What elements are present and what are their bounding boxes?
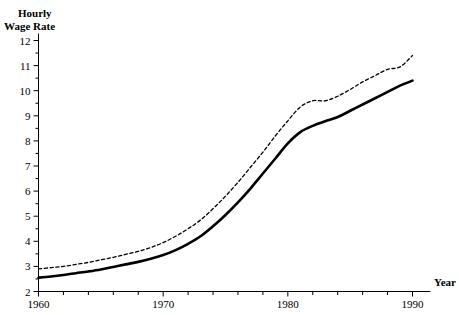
- chart-title-line2: Wage Rate: [4, 20, 55, 32]
- y-axis-tick-label: 3: [25, 260, 31, 272]
- chart-title-line1: Hourly: [18, 7, 52, 19]
- y-axis-tick-label: 5: [25, 210, 31, 222]
- hourly-wage-rate-line-chart: Hourly Wage Rate 23456789101112 19601970…: [0, 0, 459, 315]
- y-axis-tick-label: 8: [25, 135, 31, 147]
- y-axis-tick-label: 10: [20, 85, 32, 97]
- x-axis: 1960197019801990: [28, 292, 431, 310]
- y-axis-tick-label: 6: [25, 185, 31, 197]
- series-dashed-curve: [39, 56, 413, 269]
- x-axis-tick-label: 1970: [152, 298, 175, 310]
- y-axis-tick-label: 11: [20, 60, 31, 72]
- x-axis-tick-label: 1980: [277, 298, 300, 310]
- y-axis-tick-label: 7: [25, 160, 31, 172]
- data-series-group: [39, 56, 413, 278]
- chart-title-group: Hourly Wage Rate: [4, 7, 55, 32]
- x-axis-tick-label: 1990: [402, 298, 425, 310]
- x-axis-tick-label: 1960: [28, 298, 51, 310]
- y-axis-tick-label: 12: [20, 35, 31, 47]
- y-axis: 23456789101112: [20, 34, 39, 298]
- chart-container: Hourly Wage Rate 23456789101112 19601970…: [0, 0, 459, 315]
- y-axis-tick-label: 4: [25, 235, 31, 247]
- y-axis-tick-label: 9: [25, 110, 31, 122]
- series-solid-curve: [39, 81, 413, 278]
- y-axis-tick-label: 2: [25, 286, 31, 298]
- x-axis-title: Year: [434, 276, 456, 288]
